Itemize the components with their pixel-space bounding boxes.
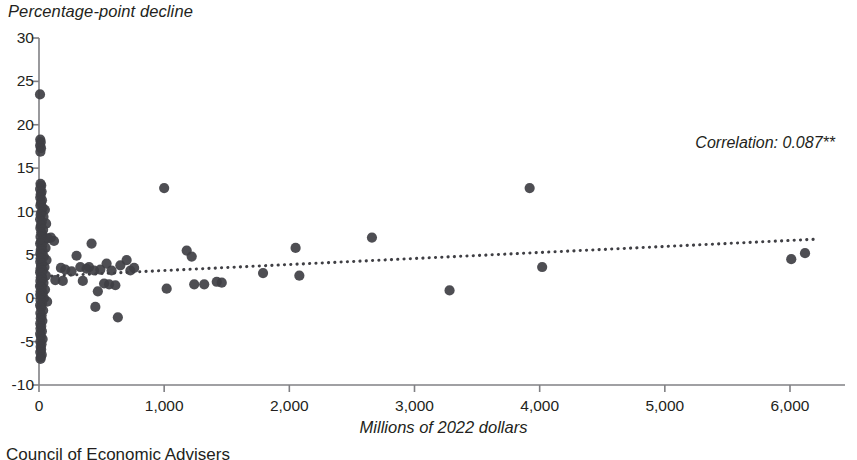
- x-axis-tick-label: 3,000: [395, 398, 434, 414]
- x-axis-label: Millions of 2022 dollars: [0, 418, 857, 437]
- y-axis-tick-label: 10: [0, 204, 34, 220]
- y-axis-tick-label: -5: [0, 334, 34, 350]
- scatter-point: [189, 279, 199, 289]
- scatter-point: [78, 276, 88, 286]
- scatter-point: [86, 239, 96, 249]
- y-axis-tick-label: 15: [0, 160, 34, 176]
- scatter-point: [90, 302, 100, 312]
- x-axis-tick-label: 5,000: [645, 398, 684, 414]
- scatter-point: [35, 354, 45, 364]
- scatter-chart-figure: Percentage-point decline -10-50510152025…: [0, 0, 857, 460]
- scatter-point: [58, 276, 68, 286]
- x-axis-tick-label: 4,000: [520, 398, 559, 414]
- scatter-point: [800, 248, 810, 258]
- source-footer: Council of Economic Advisers: [6, 445, 230, 460]
- y-axis-tick-label: 30: [0, 30, 34, 46]
- correlation-annotation: Correlation: 0.087**: [695, 134, 835, 152]
- scatter-point: [129, 263, 139, 273]
- scatter-point: [258, 268, 268, 278]
- scatter-point: [444, 285, 454, 295]
- scatter-point: [187, 252, 197, 262]
- scatter-point: [294, 271, 304, 281]
- scatter-point: [113, 312, 123, 322]
- scatter-point: [217, 278, 227, 288]
- scatter-point: [35, 89, 45, 99]
- scatter-point: [525, 183, 535, 193]
- scatter-point: [199, 279, 209, 289]
- scatter-point: [290, 243, 300, 253]
- scatter-point: [122, 255, 132, 265]
- scatter-point: [110, 280, 120, 290]
- scatter-point: [35, 147, 45, 157]
- x-axis-label-text: Millions of 2022 dollars: [360, 418, 528, 437]
- x-axis-tick-label: 6,000: [771, 398, 810, 414]
- scatter-point: [49, 236, 59, 246]
- y-axis-tick-label: 0: [0, 290, 34, 306]
- scatter-point: [162, 284, 172, 294]
- scatter-point: [66, 266, 76, 276]
- trendline: [39, 239, 815, 276]
- scatter-points-group: [35, 89, 810, 364]
- plot-area: [0, 0, 857, 460]
- x-axis-tick-label: 0: [35, 398, 44, 414]
- scatter-point: [107, 265, 117, 275]
- y-axis-tick-label: -10: [0, 377, 34, 393]
- scatter-point: [537, 262, 547, 272]
- scatter-point: [159, 183, 169, 193]
- y-axis-tick-label: 5: [0, 247, 34, 263]
- x-axis-tick-label: 2,000: [270, 398, 309, 414]
- x-axis-tick-label: 1,000: [145, 398, 184, 414]
- scatter-point: [71, 251, 81, 261]
- scatter-point: [786, 254, 796, 264]
- y-axis-tick-label: 20: [0, 117, 34, 133]
- scatter-point: [367, 232, 377, 242]
- y-axis-tick-label: 25: [0, 73, 34, 89]
